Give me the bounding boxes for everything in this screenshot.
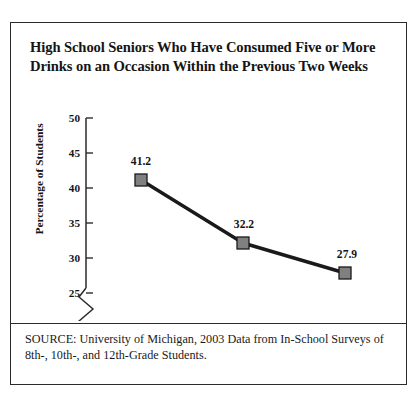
figure-frame: High School Seniors Who Have Consumed Fi… bbox=[10, 22, 407, 385]
line-chart-svg: 50 45 40 35 30 25 1980 1990 2003 bbox=[11, 81, 406, 321]
y-tick-label-30: 30 bbox=[69, 252, 81, 264]
data-label-2003: 27.9 bbox=[337, 248, 357, 261]
y-axis-title: Percentage of Students bbox=[33, 109, 45, 249]
data-marker-2003 bbox=[339, 267, 351, 279]
data-marker-1990 bbox=[237, 237, 249, 249]
chart-plot-area: Percentage of Students 50 45 40 35 30 25 bbox=[11, 81, 406, 321]
data-label-1980: 41.2 bbox=[131, 155, 151, 168]
y-tick-label-40: 40 bbox=[69, 182, 81, 194]
source-divider bbox=[11, 323, 406, 324]
y-tick-label-50: 50 bbox=[69, 112, 81, 124]
y-axis-group: 50 45 40 35 30 25 bbox=[69, 112, 93, 321]
source-note: SOURCE: University of Michigan, 2003 Dat… bbox=[25, 331, 393, 363]
figure-title: High School Seniors Who Have Consumed Fi… bbox=[30, 38, 392, 75]
data-label-1990: 32.2 bbox=[234, 218, 254, 231]
y-tick-label-35: 35 bbox=[69, 217, 81, 229]
data-marker-1980 bbox=[135, 174, 147, 186]
y-tick-label-45: 45 bbox=[69, 147, 81, 159]
